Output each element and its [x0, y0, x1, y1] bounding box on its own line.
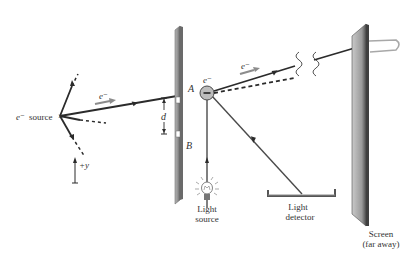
screen-label-line2: (far away) — [362, 239, 399, 249]
detector-label-line1: Light — [288, 202, 308, 212]
electron-beam-deflected — [214, 78, 294, 93]
y-axis-indicator: +y — [72, 157, 89, 183]
electron-label: e⁻ — [203, 75, 212, 85]
arrow-up-icon — [73, 157, 77, 163]
detector-label-line2: detector — [286, 212, 315, 222]
arrow-up-icon — [205, 157, 209, 163]
photon-scattered — [212, 96, 302, 194]
slit-a — [176, 97, 180, 103]
slit-b-label: B — [186, 140, 192, 151]
slit-a-label: A — [187, 83, 195, 94]
electron-beam-incident — [60, 96, 177, 116]
electron-beam-label-left: e⁻ — [95, 91, 116, 104]
source-word-label: source — [29, 112, 53, 122]
arrow-icon — [272, 69, 279, 76]
slit-separation-marker: d — [160, 98, 168, 134]
light-source-label-line1: Light — [197, 204, 217, 214]
arrow-icon — [70, 80, 75, 86]
electron-beam-label-right: e⁻ — [240, 61, 260, 74]
svg-text:e⁻: e⁻ — [99, 91, 108, 101]
screen-mount-hook — [369, 40, 399, 52]
motion-arrow-icon — [95, 101, 110, 104]
double-slit-barrier: A B — [175, 26, 195, 204]
axis-label: +y — [79, 160, 89, 170]
screen-label-line1: Screen — [369, 229, 394, 239]
svg-text:e⁻: e⁻ — [241, 61, 250, 71]
two-slit-electron-diagram: × e⁻ source +y e⁻ d A B — [0, 0, 411, 254]
electron-beam-far — [314, 47, 358, 60]
source-electron-label: e⁻ — [16, 112, 25, 122]
electron-particle: e⁻ — [200, 75, 214, 100]
slit-b — [176, 131, 180, 137]
svg-text:e⁻ source: e⁻ source — [16, 112, 53, 122]
detection-screen: Screen (far away) — [352, 24, 400, 249]
break-symbol-left — [296, 52, 302, 76]
light-source-label-line2: source — [195, 214, 219, 224]
break-symbol-right — [313, 52, 319, 76]
